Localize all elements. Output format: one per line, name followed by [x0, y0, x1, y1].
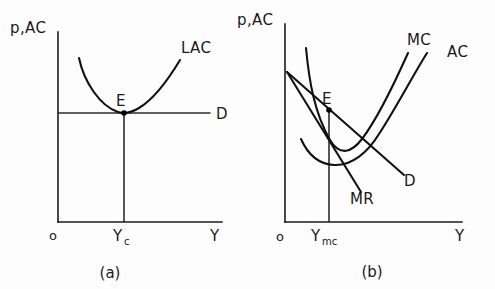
- panel-a-equilibrium-label: E: [116, 92, 126, 110]
- economics-figure-svg: p,AC LAC D E o Y c Y (a): [0, 0, 495, 289]
- panel-b-ac-label: AC: [447, 43, 468, 61]
- panel-b-ac-curve: [301, 53, 427, 165]
- panel-b-equilibrium-point: [326, 107, 332, 113]
- panel-a-quantity-tick-label: Y c: [112, 227, 130, 247]
- panel-a-lac-label: LAC: [181, 39, 211, 57]
- panel-b-origin-label: o: [276, 229, 284, 244]
- panel-b-quantity-subscript: mc: [322, 236, 337, 247]
- panel-a-quantity-base: Y: [112, 227, 123, 245]
- figure-root: p,AC LAC D E o Y c Y (a): [0, 0, 495, 289]
- panel-a: p,AC LAC D E o Y c Y (a): [10, 19, 228, 282]
- panel-b-x-axis-label: Y: [454, 227, 465, 245]
- panel-b-mc-label: MC: [407, 31, 431, 49]
- panel-b-quantity-base: Y: [310, 227, 321, 245]
- panel-b-demand-label: D: [404, 172, 416, 190]
- panel-a-equilibrium-point: [121, 110, 127, 116]
- panel-b-caption: (b): [361, 263, 382, 281]
- panel-a-caption: (a): [100, 264, 121, 282]
- panel-b: p,AC MC AC D MR E o Y mc Y (b): [237, 11, 468, 281]
- panel-a-origin-label: o: [49, 228, 57, 243]
- panel-a-demand-label: D: [216, 105, 228, 123]
- panel-a-x-axis-label: Y: [209, 227, 220, 245]
- panel-a-y-axis-label: p,AC: [10, 19, 46, 37]
- panel-a-lac-curve: [79, 58, 180, 113]
- panel-b-y-axis-label: p,AC: [237, 11, 273, 29]
- panel-a-quantity-subscript: c: [124, 236, 130, 247]
- panel-b-equilibrium-label: E: [322, 90, 332, 108]
- panel-b-mr-label: MR: [350, 190, 374, 208]
- panel-b-quantity-tick-label: Y mc: [310, 227, 337, 247]
